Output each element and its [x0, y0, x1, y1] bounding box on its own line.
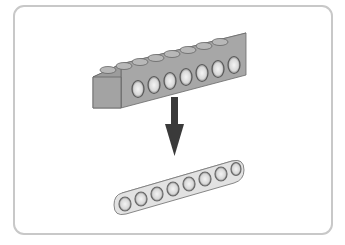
- arrow-down-icon: [165, 97, 184, 156]
- technic-brick-icon: [93, 33, 246, 108]
- instruction-illustration: [0, 0, 345, 245]
- technic-beam-icon: [114, 160, 244, 214]
